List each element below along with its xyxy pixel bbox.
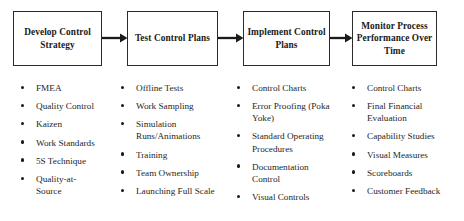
bullet-list-develop-control-strategy: FMEA Quality Control Kaizen Work Standar… <box>21 82 99 203</box>
list-item: Work Standards <box>21 137 99 149</box>
list-item: Customer Feedback <box>352 185 450 197</box>
list-item: Documentation Control <box>237 161 337 185</box>
list-item: Scoreboards <box>352 167 450 179</box>
bullet-dot-icon <box>352 104 355 107</box>
list-item: Launching Full Scale <box>121 185 218 197</box>
list-item: Standard Operating Procedures <box>237 130 337 154</box>
list-item: Quality Control <box>21 100 99 112</box>
list-item: Control Charts <box>352 82 450 94</box>
list-item: Final Financial Evaluation <box>352 100 450 124</box>
bullet-dot-icon <box>237 195 240 198</box>
bullet-list-implement-control-plans: Control Charts Error Proofing (Poka Yoke… <box>237 82 337 209</box>
stage-label-test-control-plans: Test Control Plans <box>131 32 214 44</box>
bullet-dot-icon <box>121 170 124 173</box>
list-item: Training <box>121 149 218 161</box>
bullet-dot-icon <box>352 170 355 173</box>
bullet-dot-icon <box>237 86 240 89</box>
bullet-dot-icon <box>21 86 24 89</box>
bullet-dot-icon <box>237 134 240 137</box>
bullet-dot-icon <box>237 164 240 167</box>
stage-label-implement-control-plans: Implement Control Plans <box>247 26 326 50</box>
list-item: Error Proofing (Poka Yoke) <box>237 100 337 124</box>
bullet-dot-icon <box>352 189 355 192</box>
bullet-dot-icon <box>21 104 24 107</box>
list-item: Simulation Runs/Animations <box>121 118 218 142</box>
bullet-dot-icon <box>121 86 124 89</box>
bullet-list-monitor-process-performance: Control Charts Final Financial Evaluatio… <box>352 82 450 203</box>
bullet-dot-icon <box>21 140 24 143</box>
bullet-dot-icon <box>21 177 24 180</box>
bullet-dot-icon <box>21 122 24 125</box>
stage-box-develop-control-strategy[interactable]: Develop Control Strategy <box>13 11 102 66</box>
arrow-develop-to-test <box>102 33 128 43</box>
list-item: Visual Measures <box>352 149 450 161</box>
bullet-dot-icon <box>237 104 240 107</box>
arrow-implement-to-monitor <box>330 33 353 43</box>
control-phase-diagram: Develop Control Strategy Test Control Pl… <box>0 0 464 221</box>
list-item: Quality-at-Source <box>21 173 99 197</box>
bullet-dot-icon <box>121 152 124 155</box>
list-item: Offline Tests <box>121 82 218 94</box>
stage-label-monitor-process-performance: Monitor Process Performance Over Time <box>356 20 433 57</box>
bullet-dot-icon <box>352 134 355 137</box>
bullet-dot-icon <box>21 158 24 161</box>
list-item: Control Charts <box>237 82 337 94</box>
stage-box-implement-control-plans[interactable]: Implement Control Plans <box>243 11 330 66</box>
list-item: FMEA <box>21 82 99 94</box>
bullet-dot-icon <box>352 152 355 155</box>
bullet-dot-icon <box>352 86 355 89</box>
bullet-dot-icon <box>121 122 124 125</box>
list-item: Visual Controls <box>237 191 337 203</box>
list-item: Team Ownership <box>121 167 218 179</box>
list-item: Kaizen <box>21 118 99 130</box>
bullet-dot-icon <box>121 104 124 107</box>
list-item: Capability Studies <box>352 130 450 142</box>
stage-box-monitor-process-performance[interactable]: Monitor Process Performance Over Time <box>352 11 437 66</box>
arrow-test-to-implement <box>218 33 244 43</box>
list-item: Work Sampling <box>121 100 218 112</box>
stage-label-develop-control-strategy: Develop Control Strategy <box>17 26 98 50</box>
bullet-dot-icon <box>121 189 124 192</box>
list-item: 5S Technique <box>21 155 99 167</box>
bullet-list-test-control-plans: Offline Tests Work Sampling Simulation R… <box>121 82 218 203</box>
stage-box-test-control-plans[interactable]: Test Control Plans <box>127 11 218 66</box>
